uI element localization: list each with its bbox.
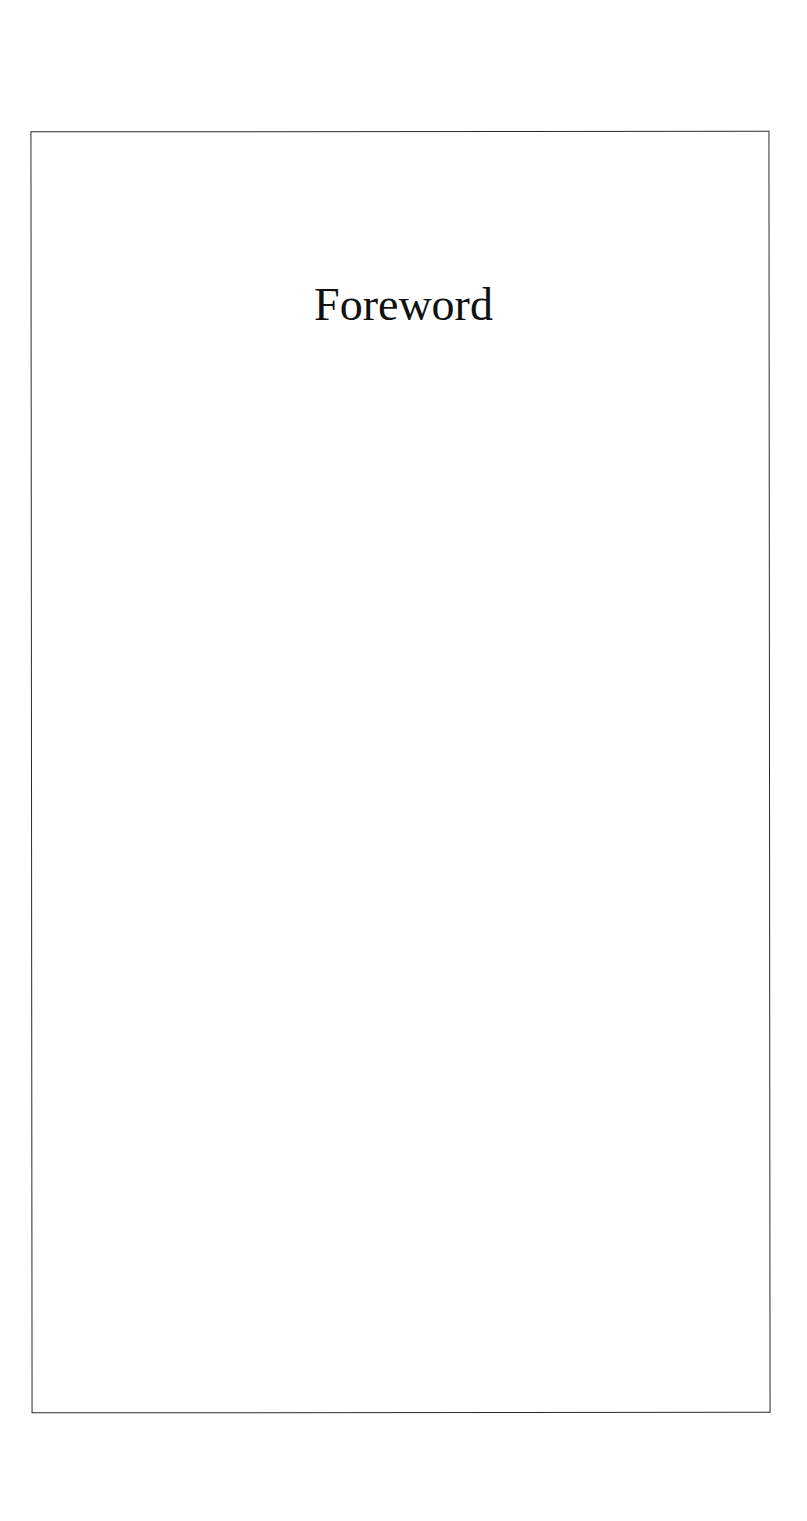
page-title: Foreword (0, 282, 807, 328)
